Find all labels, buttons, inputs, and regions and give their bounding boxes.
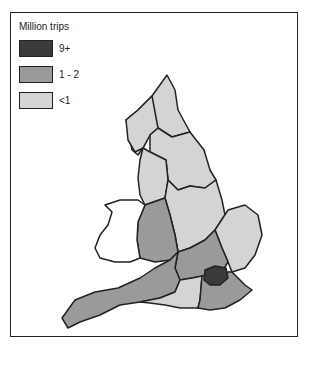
region-south-west xyxy=(62,252,180,328)
england-map xyxy=(0,0,310,389)
wales-outline xyxy=(95,200,145,262)
